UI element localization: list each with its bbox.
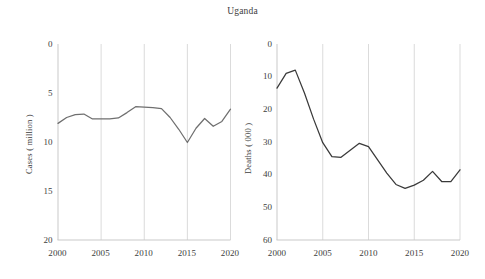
x-tick-label: 2015: [170, 249, 204, 258]
y-tick-label: 40: [250, 170, 272, 179]
x-tick-label: 2020: [213, 249, 247, 258]
y-tick-label: 30: [250, 138, 272, 147]
x-tick-label: 2000: [41, 249, 75, 258]
x-tick-label: 2005: [306, 249, 340, 258]
figure-canvas: Uganda Cases ( million ) 20 15 10 5 0 20…: [0, 0, 485, 279]
y-tick-label: 0: [31, 40, 53, 49]
plot-area-deaths: [276, 43, 461, 241]
y-tick-label: 10: [31, 138, 53, 147]
y-tick-label: 10: [250, 72, 272, 81]
x-tick-label: 2005: [84, 249, 118, 258]
plot-area-cases: [57, 43, 232, 241]
y-tick-label: 15: [31, 187, 53, 196]
y-tick-label: 0: [250, 40, 272, 49]
panel-cases: Cases ( million ) 20 15 10 5 0 2000 2005…: [0, 0, 243, 279]
panel-deaths: Deaths ( 000 ) 60 50 40 30 20 10 0 2000 …: [243, 0, 485, 279]
y-axis-label-deaths: Deaths ( 000 ): [243, 123, 253, 174]
x-tick-label: 2000: [260, 249, 294, 258]
x-tick-label: 2010: [352, 249, 386, 258]
x-tick-label: 2015: [397, 249, 431, 258]
y-tick-label: 20: [250, 105, 272, 114]
y-tick-label: 5: [31, 89, 53, 98]
y-tick-label: 20: [31, 236, 53, 245]
x-tick-label: 2010: [127, 249, 161, 258]
x-tick-label: 2020: [443, 249, 477, 258]
y-tick-label: 60: [250, 236, 272, 245]
y-tick-label: 50: [250, 203, 272, 212]
